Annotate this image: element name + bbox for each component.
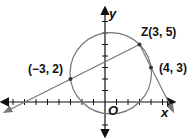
- diagram: y x O Z(3, 5) (−3, 2) (4, 3): [0, 0, 194, 139]
- point-4-3: [149, 66, 153, 70]
- secant-line-z-p2: [140, 45, 174, 112]
- x-axis-label: x: [161, 106, 168, 119]
- point-neg3-2-label: (−3, 2): [28, 63, 63, 75]
- point-4-3-label: (4, 3): [159, 62, 187, 74]
- point-z: [138, 43, 142, 47]
- y-axis-label: y: [109, 7, 116, 20]
- origin-label: O: [108, 104, 118, 117]
- point-z-label: Z(3, 5): [141, 26, 176, 38]
- point-neg3-2: [69, 77, 73, 81]
